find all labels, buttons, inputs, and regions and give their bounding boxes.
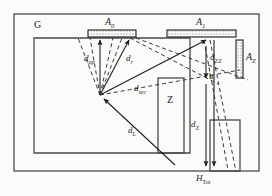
label-dist-zz: dZZ [210,53,222,62]
label-surface-az: AZ [246,52,256,62]
label-point-b: b [209,72,214,81]
label-surface-a0-sub: 0 [111,22,114,29]
label-dist-zz-base: d [210,52,215,62]
label-dist-l-base: d [128,125,133,135]
surface-az-bar [236,40,243,78]
figure-canvas: G Z A0 A1 AZ dpp dr dsec dL dZZ dZ HTot … [0,0,272,196]
label-dist-z-sub: Z [196,125,200,131]
label-dist-z: dZ [191,120,199,129]
label-dist-sec: dsec [134,84,146,93]
label-dist-sec-base: d [134,83,139,93]
label-zone-z: Z [167,95,173,105]
label-dist-sec-sub: sec [139,89,147,95]
zone-block-outline [158,78,184,153]
solid-measure-lines [100,40,214,166]
label-surface-a1-sub: 1 [202,22,205,29]
label-dist-zz-sub: ZZ [215,58,222,64]
label-dist-l-sub: L [133,131,137,137]
label-dist-r: dr [126,54,133,63]
label-dist-l: dL [128,126,136,135]
label-surface-az-sub: Z [252,57,256,64]
label-dist-pp: dpp [84,54,94,63]
label-dist-pp-sub: pp [89,59,95,65]
label-room-g: G [34,20,41,30]
dashed-ray-lines [78,38,248,172]
surface-a0-bar [88,30,136,37]
label-height-tot-sub: Tot [203,179,211,185]
label-dist-pp-base: d [84,53,89,63]
surface-a1-bar [167,30,236,37]
label-surface-a1: A1 [196,17,205,27]
label-surface-a0: A0 [105,17,114,27]
label-dist-r-sub: r [131,59,133,65]
label-dist-r-base: d [126,53,131,63]
label-dist-z-base: d [191,119,196,129]
label-height-tot-base: H [196,173,203,183]
label-height-tot: HTot [196,174,210,183]
